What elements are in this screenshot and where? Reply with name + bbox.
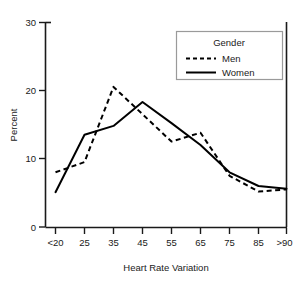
series-line-men bbox=[56, 87, 287, 192]
x-tick-label-4: 55 bbox=[166, 237, 177, 248]
x-tick-label-0: <20 bbox=[47, 237, 63, 248]
x-tick-label-1: 25 bbox=[79, 237, 90, 248]
x-tick-label-6: 75 bbox=[224, 237, 235, 248]
legend-label-men: Men bbox=[222, 53, 240, 64]
x-tick-label-3: 45 bbox=[137, 237, 148, 248]
y-axis-tick-labels: 30 20 10 0 bbox=[25, 17, 36, 233]
legend-title: Gender bbox=[213, 37, 245, 48]
line-chart: 30 20 10 0 Percent <20 25 35 45 55 65 bbox=[0, 0, 299, 285]
chart-figure: 30 20 10 0 Percent <20 25 35 45 55 65 bbox=[0, 0, 299, 285]
x-tick-label-8: >90 bbox=[276, 237, 292, 248]
legend: Gender Men Women bbox=[177, 32, 283, 80]
y-axis-ticks bbox=[39, 23, 46, 228]
y-axis-title: Percent bbox=[8, 108, 19, 141]
y-tick-label-0: 0 bbox=[31, 222, 36, 233]
x-tick-label-5: 65 bbox=[195, 237, 206, 248]
y-tick-label-30: 30 bbox=[25, 17, 36, 28]
x-axis-ticks bbox=[56, 228, 287, 235]
legend-label-women: Women bbox=[222, 67, 255, 78]
y-tick-label-20: 20 bbox=[25, 85, 36, 96]
x-tick-label-2: 35 bbox=[108, 237, 119, 248]
x-axis-title: Heart Rate Variation bbox=[123, 262, 208, 273]
y-tick-label-10: 10 bbox=[25, 153, 36, 164]
x-tick-label-7: 85 bbox=[253, 237, 264, 248]
x-axis-tick-labels: <20 25 35 45 55 65 75 85 >90 bbox=[47, 237, 292, 248]
